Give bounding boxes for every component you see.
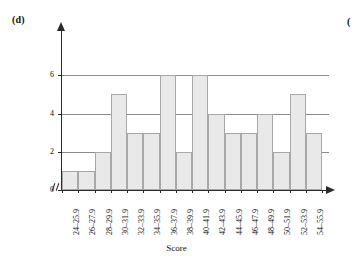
- histogram-bar: [273, 152, 289, 190]
- x-axis-tick: [95, 190, 96, 193]
- histogram-bar: [306, 133, 322, 190]
- x-axis-arrow-icon: [326, 186, 335, 194]
- histogram-bar: [208, 114, 224, 190]
- x-axis-tick-label: 46–47.9: [252, 209, 260, 235]
- x-axis-tick: [290, 190, 291, 193]
- x-axis-tick: [306, 190, 307, 193]
- panel-label: (d): [12, 14, 25, 25]
- y-axis-tick-label: 6: [40, 71, 54, 79]
- y-axis-tick-label: 2: [40, 148, 54, 156]
- x-axis-tick-label: 44–45.9: [236, 209, 244, 235]
- histogram-bar: [290, 94, 306, 190]
- x-axis-tick-label: 36–37.9: [171, 209, 179, 235]
- x-axis-tick-label: 24–25.9: [73, 209, 81, 235]
- x-axis-tick: [160, 190, 161, 193]
- x-axis-tick: [208, 190, 209, 193]
- histogram-bar: [78, 171, 94, 190]
- x-axis-tick: [273, 190, 274, 193]
- histogram-bar: [62, 171, 78, 190]
- x-axis-tick: [192, 190, 193, 193]
- x-axis-tick: [111, 190, 112, 193]
- x-axis-tick-label: 32–33.9: [138, 209, 146, 235]
- y-axis-tick-label: 4: [40, 110, 54, 118]
- histogram-bar: [192, 75, 208, 190]
- histogram-figure: (d) ( Frequency 0246 24–25.926–27.928–29…: [0, 0, 353, 261]
- x-axis-tick: [225, 190, 226, 193]
- x-axis-title: Score: [0, 243, 353, 253]
- x-axis-tick: [176, 190, 177, 193]
- histogram-bar: [225, 133, 241, 190]
- x-axis-tick-label: 30–31.9: [122, 209, 130, 235]
- x-axis-tick: [241, 190, 242, 193]
- x-axis-tick: [322, 190, 323, 193]
- neighbor-panel-label: (: [347, 16, 351, 27]
- histogram-bar: [176, 152, 192, 190]
- histogram-bar: [111, 94, 127, 190]
- x-axis-line: [62, 190, 327, 191]
- x-axis-tick-label: 42–43.9: [219, 209, 227, 235]
- x-axis-tick: [78, 190, 79, 193]
- histogram-bar: [127, 133, 143, 190]
- x-axis-tick: [127, 190, 128, 193]
- plot-area: [62, 60, 322, 190]
- x-axis-tick-label: 26–27.9: [89, 209, 97, 235]
- x-axis-tick-label: 34–35.9: [154, 209, 162, 235]
- histogram-bar: [95, 152, 111, 190]
- x-axis-tick: [143, 190, 144, 193]
- histogram-bar: [257, 114, 273, 190]
- histogram-bar: [143, 133, 159, 190]
- y-axis-arrow-icon: [57, 22, 65, 31]
- x-axis-tick: [257, 190, 258, 193]
- x-axis-tick-label: 40–41.9: [203, 209, 211, 235]
- histogram-bar: [241, 133, 257, 190]
- x-axis-tick-label: 48–49.9: [268, 209, 276, 235]
- x-axis-tick-label: 38–39.9: [187, 209, 195, 235]
- x-axis-tick-label: 54–55.9: [317, 209, 325, 235]
- y-axis-tick-label: 0: [40, 186, 54, 194]
- x-axis-tick-label: 52–53.9: [301, 209, 309, 235]
- x-axis-tick: [62, 190, 63, 193]
- histogram-bar: [160, 75, 176, 190]
- x-axis-tick-label: 50–51.9: [284, 209, 292, 235]
- x-axis-tick-label: 28–29.9: [106, 209, 114, 235]
